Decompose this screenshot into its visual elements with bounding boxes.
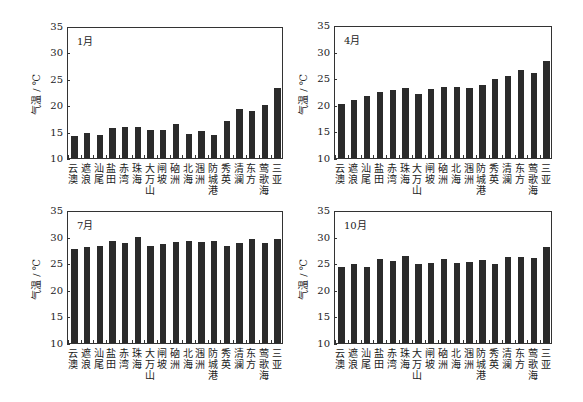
y-tick-mark xyxy=(67,133,70,134)
x-tick-label: 东方 xyxy=(245,163,257,185)
y-tick-mark xyxy=(334,26,337,27)
x-tick-label: 闸坡 xyxy=(424,163,436,185)
x-tick-label: 防城港 xyxy=(207,348,219,381)
x-tick-label: 云澳 xyxy=(334,348,346,370)
y-tick-mark xyxy=(334,344,337,345)
y-tick-label: 30 xyxy=(310,48,330,58)
x-tick-mark xyxy=(502,155,503,158)
x-tick-label: 闸坡 xyxy=(156,348,168,370)
x-tick-mark xyxy=(170,155,171,158)
y-tick-mark xyxy=(334,106,337,107)
bar xyxy=(351,264,357,343)
y-tick-label: 15 xyxy=(310,312,330,322)
x-tick-label: 闸坡 xyxy=(424,348,436,370)
y-tick-label: 10 xyxy=(310,339,330,349)
y-tick-mark xyxy=(67,80,70,81)
y-tick-mark xyxy=(67,238,70,239)
y-tick-mark xyxy=(334,159,337,160)
x-tick-label: 盐田 xyxy=(373,348,385,370)
x-tick-label: 莺歌海 xyxy=(258,348,270,381)
y-tick-label: 20 xyxy=(310,101,330,111)
bar xyxy=(492,79,498,158)
bar xyxy=(505,257,511,343)
bar xyxy=(441,87,447,158)
x-tick-mark xyxy=(515,155,516,158)
y-axis-label: 气温 / ℃ xyxy=(295,64,310,124)
bar xyxy=(84,133,90,158)
y-tick-label: 25 xyxy=(310,74,330,84)
bar xyxy=(211,241,217,343)
x-tick-label: 遮浪 xyxy=(347,348,359,370)
y-tick-label: 20 xyxy=(43,286,63,296)
x-tick-label: 汕尾 xyxy=(93,163,105,185)
x-tick-mark xyxy=(425,155,426,158)
plot-area xyxy=(67,211,283,344)
x-tick-label: 三亚 xyxy=(540,163,552,185)
x-tick-label: 防城港 xyxy=(207,163,219,196)
bar xyxy=(390,90,396,158)
bar xyxy=(249,111,255,158)
x-tick-mark xyxy=(208,340,209,343)
x-tick-label: 硇洲 xyxy=(437,163,449,185)
x-tick-label: 莺歌海 xyxy=(527,163,539,196)
x-tick-mark xyxy=(220,155,221,158)
bar xyxy=(135,237,141,343)
x-tick-mark xyxy=(463,340,464,343)
bar xyxy=(428,89,434,158)
y-tick-label: 30 xyxy=(43,233,63,243)
x-tick-mark xyxy=(540,155,541,158)
x-tick-label: 云澳 xyxy=(67,348,79,370)
x-tick-mark xyxy=(93,155,94,158)
x-tick-label: 秀英 xyxy=(488,348,500,370)
x-tick-label: 防城港 xyxy=(475,348,487,381)
x-tick-label: 防城港 xyxy=(475,163,487,196)
x-tick-mark xyxy=(208,155,209,158)
y-tick-label: 25 xyxy=(310,259,330,269)
y-tick-label: 25 xyxy=(43,259,63,269)
x-tick-mark xyxy=(425,340,426,343)
x-tick-mark xyxy=(106,155,107,158)
bar xyxy=(377,92,383,159)
bar xyxy=(249,239,255,343)
bar xyxy=(198,131,204,158)
x-tick-mark xyxy=(386,155,387,158)
x-tick-mark xyxy=(144,155,145,158)
x-tick-label: 清澜 xyxy=(233,163,245,185)
x-tick-mark xyxy=(489,155,490,158)
x-tick-label: 珠海 xyxy=(399,348,411,370)
x-tick-label: 盐田 xyxy=(105,348,117,370)
bar xyxy=(505,76,511,158)
bar xyxy=(186,134,192,158)
bar xyxy=(531,258,537,343)
x-tick-label: 硇洲 xyxy=(437,348,449,370)
bar xyxy=(262,243,268,343)
x-tick-label: 汕尾 xyxy=(360,348,372,370)
x-tick-label: 涠洲 xyxy=(194,348,206,370)
x-tick-mark xyxy=(68,155,69,158)
plot-area xyxy=(334,26,552,159)
x-tick-mark xyxy=(399,340,400,343)
bar xyxy=(173,124,179,158)
bar xyxy=(402,88,408,158)
y-tick-mark xyxy=(67,211,70,212)
panel-title: 1月 xyxy=(77,33,93,48)
bar xyxy=(415,264,421,343)
x-tick-mark xyxy=(438,340,439,343)
x-tick-mark xyxy=(335,340,336,343)
bar xyxy=(390,261,396,343)
x-tick-label: 大万山 xyxy=(411,163,423,196)
x-tick-label: 清澜 xyxy=(501,163,513,185)
x-tick-mark xyxy=(182,340,183,343)
bar xyxy=(211,135,217,158)
bar xyxy=(224,246,230,343)
bar xyxy=(543,61,549,158)
x-tick-label: 北海 xyxy=(182,348,194,370)
bar xyxy=(236,109,242,158)
x-tick-label: 秀英 xyxy=(220,348,232,370)
y-tick-label: 25 xyxy=(43,75,63,85)
y-tick-mark xyxy=(334,132,337,133)
y-tick-label: 10 xyxy=(43,339,63,349)
x-tick-label: 盐田 xyxy=(105,163,117,185)
bar xyxy=(71,249,77,343)
x-tick-label: 珠海 xyxy=(131,163,143,185)
